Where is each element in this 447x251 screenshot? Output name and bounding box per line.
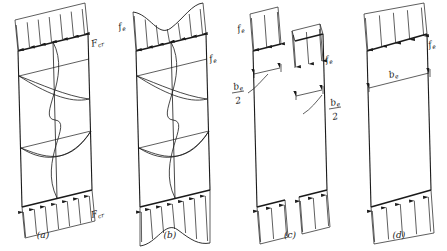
panel-d: be fe (d) (364, 3, 437, 244)
panel-c-left-dim-label: be 2 (232, 80, 244, 106)
panel-c-left-load-label: fe (235, 22, 246, 35)
panel-c-right-dimension (296, 86, 323, 114)
panel-d-plate-outline (367, 34, 431, 207)
panel-d-caption: (d) (393, 230, 406, 240)
panel-b-buckled-shape (137, 42, 209, 198)
panel-a-top-stress-block (15, 3, 88, 51)
figure-root: Fcr Fcr (a) (0, 0, 447, 251)
panel-b-top-stress-block (133, 3, 206, 51)
panel-c-top-right-strip (292, 24, 323, 68)
panel-a-top-load-label: Fcr (89, 36, 106, 50)
panel-a-buckled-shape (19, 42, 91, 198)
panel-c: be 2 be 2 fe fe (c) (232, 7, 341, 244)
panel-d-dimension (369, 69, 430, 92)
panel-c-caption: (c) (284, 230, 297, 240)
panel-d-top-stress-block (364, 3, 427, 51)
panel-b-left-load-label: fe (116, 20, 127, 33)
panel-a-caption: (a) (37, 230, 50, 240)
panel-c-plate-outline (253, 34, 327, 207)
panel-b: fe fe (b) (116, 3, 218, 246)
panel-c-right-load-label: fe (323, 53, 334, 66)
svg-text:2: 2 (233, 95, 242, 106)
panel-a-bottom-stress-block (22, 190, 95, 238)
panel-b-right-load-label: fe (207, 52, 218, 65)
panel-d-dim-label: be (388, 68, 400, 81)
panel-c-right-dim-label: be 2 (329, 96, 341, 122)
panel-a: Fcr Fcr (a) (15, 3, 106, 240)
svg-text:2: 2 (330, 111, 339, 122)
engineering-figure: Fcr Fcr (a) (0, 0, 447, 251)
panel-b-caption: (b) (164, 230, 177, 240)
panel-a-bottom-load-label: Fcr (89, 207, 106, 221)
